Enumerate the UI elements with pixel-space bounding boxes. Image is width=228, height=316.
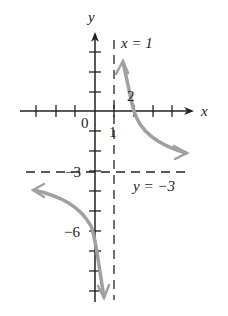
x-tick-label-2: 2 bbox=[127, 88, 135, 104]
y-tick-label-neg6: −6 bbox=[64, 224, 80, 240]
right-branch bbox=[123, 62, 186, 153]
rational-function-graph: y x 0 1 2 −3 −6 x = 1 y = −3 bbox=[0, 0, 228, 316]
x-axis-label: x bbox=[200, 103, 208, 119]
x-axis bbox=[20, 105, 192, 117]
vertical-asymptote-label: x = 1 bbox=[120, 35, 153, 51]
x-tick-label-1: 1 bbox=[109, 124, 117, 140]
origin-label: 0 bbox=[81, 115, 89, 131]
y-axis-label: y bbox=[86, 9, 95, 25]
y-tick-label-neg3: −3 bbox=[65, 164, 81, 180]
horizontal-asymptote-label: y = −3 bbox=[131, 178, 175, 194]
left-branch bbox=[34, 190, 104, 297]
